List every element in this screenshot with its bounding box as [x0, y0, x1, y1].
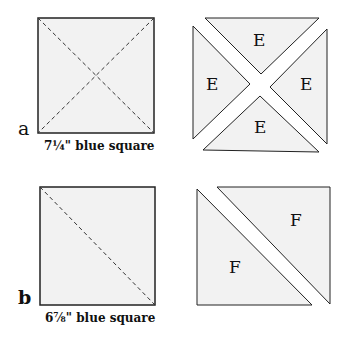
caption-b: 6⅞" blue square	[45, 311, 155, 325]
piece-label-e-bottom: E	[254, 117, 266, 137]
triangles-f	[197, 187, 330, 305]
square-b	[40, 187, 155, 305]
piece-label-e-left: E	[206, 74, 218, 94]
quilt-diagram	[0, 0, 346, 338]
piece-label-e-top: E	[253, 30, 265, 50]
row-label-a: a	[18, 117, 29, 139]
square-a	[38, 18, 154, 133]
caption-a: 7¼" blue square	[44, 139, 154, 153]
piece-label-e-right: E	[300, 74, 312, 94]
piece-label-f-lower: F	[229, 257, 241, 277]
piece-label-f-upper: F	[290, 210, 302, 230]
row-label-b: b	[18, 286, 31, 308]
